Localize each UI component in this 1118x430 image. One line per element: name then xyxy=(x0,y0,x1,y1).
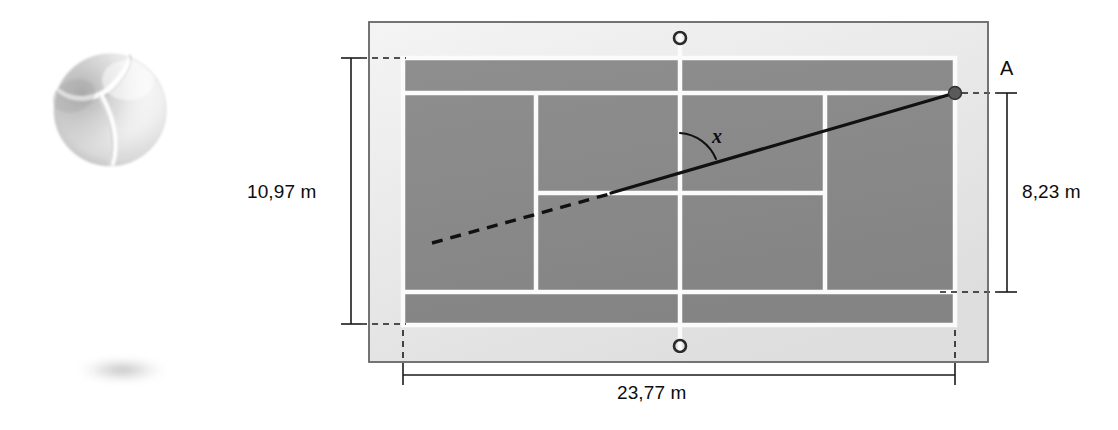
point-marker-icon xyxy=(949,87,962,100)
tennis-ball-icon xyxy=(48,54,166,166)
dimension-label-court-length: 23,77 m xyxy=(617,382,686,404)
tennis-court-figure xyxy=(0,0,1118,430)
point-label-a: A xyxy=(1000,57,1013,80)
dimension-label-court-width: 10,97 m xyxy=(247,181,316,203)
dimension-label-singles-width: 8,23 m xyxy=(1022,181,1081,203)
figure-canvas: 10,97 m 8,23 m 23,77 m A x xyxy=(0,0,1118,430)
ball-shadow-icon xyxy=(72,357,172,383)
angle-label-x: x xyxy=(712,125,722,148)
